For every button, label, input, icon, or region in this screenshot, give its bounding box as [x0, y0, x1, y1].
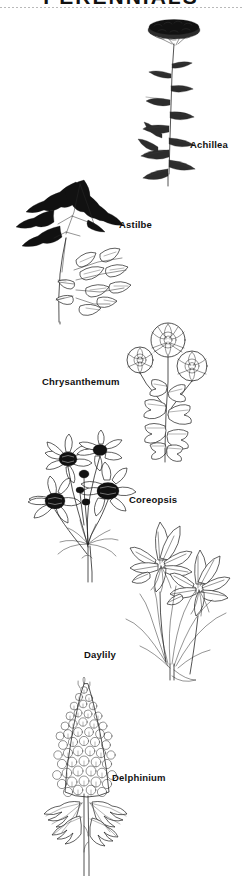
- plant-label-astilbe: Astilbe: [119, 220, 152, 230]
- plant-illustration-achillea: [118, 14, 230, 186]
- delphinium-leaves: [44, 802, 127, 847]
- delphinium-spike: [53, 677, 117, 797]
- plant-illustration-astilbe: [14, 176, 138, 324]
- plant-illustration-daylily: [124, 512, 232, 680]
- plant-label-achillea: Achillea: [190, 140, 228, 150]
- plant-label-daylily: Daylily: [84, 650, 116, 660]
- plant-label-chrysanthemum: Chrysanthemum: [42, 377, 120, 387]
- header-divider: [0, 7, 242, 8]
- astilbe-plumes: [16, 180, 123, 247]
- page-heading-text: PERENNIALS: [43, 0, 198, 6]
- plant-label-delphinium: Delphinium: [112, 773, 166, 783]
- achillea-foliage: [138, 62, 195, 180]
- chrysanthemum-blooms: [127, 323, 207, 381]
- achillea-flowerhead: [148, 20, 200, 46]
- illustration-page: PERENNIALS: [0, 0, 242, 876]
- page-heading-band: PERENNIALS: [0, 0, 242, 6]
- plant-label-coreopsis: Coreopsis: [129, 495, 177, 505]
